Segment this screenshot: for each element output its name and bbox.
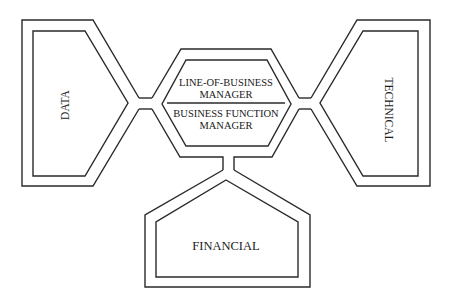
center-bottom-label-line1: BUSINESS FUNCTION xyxy=(173,108,279,119)
data-node-inner xyxy=(33,31,128,176)
center-top-label-line2: MANAGER xyxy=(199,89,252,100)
diagram-canvas: LINE-OF-BUSINESS MANAGER BUSINESS FUNCTI… xyxy=(0,0,452,303)
technical-node-inner xyxy=(320,31,418,176)
center-bottom-label-line2: MANAGER xyxy=(199,120,252,131)
data-outer-top xyxy=(22,20,139,186)
data-node-label: DATA xyxy=(59,89,71,119)
technical-node-label: TECHNICAL xyxy=(383,77,395,142)
financial-outer xyxy=(145,170,310,287)
financial-node-label: FINANCIAL xyxy=(192,239,259,253)
center-top-label-line1: LINE-OF-BUSINESS xyxy=(179,77,273,88)
technical-outer xyxy=(311,20,430,186)
